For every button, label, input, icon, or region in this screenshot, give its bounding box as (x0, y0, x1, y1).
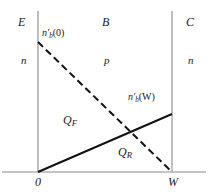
reverse-profile-line (38, 114, 172, 172)
axis-tick-label-width: W (168, 176, 178, 188)
forward-argument: (0) (53, 27, 65, 38)
region-label-base: B (102, 16, 109, 28)
reverse-charge-label: QR (118, 146, 132, 160)
axis-tick-label-zero: 0 (35, 176, 41, 188)
carrier-label-base: p (104, 55, 110, 66)
forward-charge-label: QF (63, 114, 77, 128)
carrier-label-emitter: n (21, 55, 27, 66)
region-label-collector: C (186, 16, 194, 28)
region-label-emitter: E (18, 16, 25, 28)
reverse-charge-subscript: R (127, 150, 132, 160)
reverse-argument: (W) (139, 91, 155, 102)
reverse-profile-endpoint-label: n′b(W) (128, 92, 155, 104)
reverse-charge-symbol: Q (118, 145, 127, 159)
diagram-canvas (0, 0, 208, 195)
forward-profile-endpoint-label: n′b(0) (42, 28, 64, 40)
carrier-label-collector: n (188, 55, 194, 66)
carrier-profile-diagram: E B C n p n n′b(0) n′b(W) QF QR 0 W (0, 0, 208, 195)
forward-charge-symbol: Q (63, 113, 72, 127)
forward-charge-subscript: F (72, 118, 77, 128)
